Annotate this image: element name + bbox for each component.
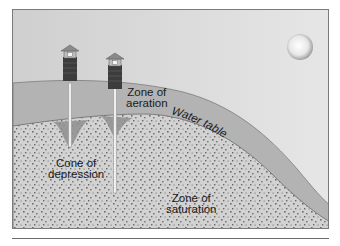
caption-rule <box>12 238 329 239</box>
cone-of-depression-label: Cone of depression <box>48 158 104 180</box>
groundwater-diagram: Water table Zone of aeration Cone of dep… <box>12 9 329 229</box>
sun-icon <box>287 34 313 60</box>
zone-of-aeration-label: Zone of aeration <box>126 87 168 109</box>
zone-of-saturation-label: Zone of saturation <box>166 193 217 215</box>
